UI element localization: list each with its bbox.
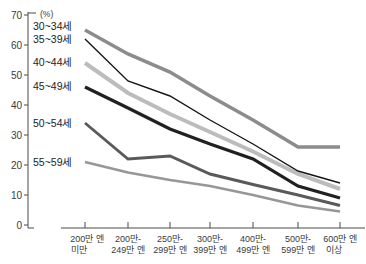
x-cat-3-line2: 299만 엔 [153,245,187,255]
legend-label-35-39: 35~39세 [33,33,73,45]
x-cat-1-line2: 미만 [71,245,87,255]
y-tick-0: 0 [16,220,22,231]
legend-label-45-49: 45~49세 [33,80,73,92]
series-line-35~39세 [85,39,340,183]
y-tick-60: 60 [11,40,23,51]
y-tick-30: 30 [11,130,23,141]
y-tick-10: 10 [11,190,23,201]
x-cat-7-line1: 600만 엔 [323,234,357,244]
x-cat-4-line2: 399만 엔 [193,245,227,255]
y-tick-20: 20 [11,160,23,171]
axes [24,12,365,228]
series-lines [85,30,340,212]
series-line-45~49세 [85,87,340,198]
x-cat-6-line1: 500만- [285,234,311,244]
y-tick-70: 70 [11,10,23,21]
y-axis-tick-labels: 70 60 50 40 30 20 10 0 [11,10,23,231]
legend-label-50-54: 50~54세 [33,117,73,129]
x-cat-4-line1: 300만- [197,234,223,244]
x-cat-2-line1: 200만- [115,234,141,244]
y-tick-40: 40 [11,100,23,111]
series-line-50~54세 [85,123,340,206]
legend-label-30-34: 30~34세 [33,20,73,32]
x-cat-1-line1: 200만 엔 [70,234,104,244]
x-cat-7-line2: 이상 [326,245,342,255]
legend: 30~34세 35~39세 40~44세 45~49세 50~54세 55~59… [33,20,73,168]
y-axis-unit-label: (%) [40,9,53,19]
x-cat-2-line2: 249만 엔 [111,245,145,255]
legend-label-55-59: 55~59세 [33,156,73,168]
x-cat-5-line1: 400만- [240,234,266,244]
y-tick-50: 50 [11,70,23,81]
x-cat-3-line1: 250만- [157,234,183,244]
legend-label-40-44: 40~44세 [33,56,73,68]
employment-rate-by-income-line-chart: (%) 70 60 50 40 30 20 10 0 200만 엔 미만 200… [0,0,366,264]
x-axis-category-labels: 200만 엔 미만 200만- 249만 엔 250만- 299만 엔 300만… [70,234,357,255]
chart-container: (%) 70 60 50 40 30 20 10 0 200만 엔 미만 200… [0,0,366,264]
x-cat-5-line2: 499만 엔 [236,245,270,255]
x-cat-6-line2: 599만 엔 [281,245,315,255]
